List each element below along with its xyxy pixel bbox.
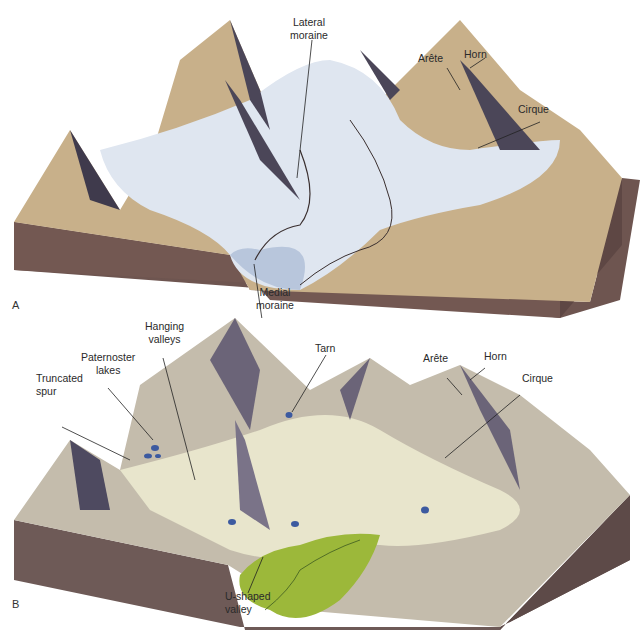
label-line: spur	[36, 385, 83, 398]
label-line: valley	[225, 603, 271, 616]
label-line: Lateral	[290, 16, 328, 29]
panel-b-deglaciated-landscape: Hanging valleys Paternoster lakes Trunca…	[0, 310, 641, 637]
label-line: Paternoster	[81, 351, 135, 364]
glacier-block-diagram-a	[0, 0, 641, 318]
label-hanging-valleys: Hanging valleys	[145, 320, 184, 346]
label-paternoster-lakes: Paternoster lakes	[81, 351, 135, 377]
label-line: valleys	[145, 333, 184, 346]
label-line: moraine	[290, 29, 328, 42]
label-cirque: Cirque	[518, 103, 549, 116]
label-u-shaped-valley: U-shaped valley	[225, 590, 271, 616]
label-truncated-spur: Truncated spur	[36, 372, 83, 398]
label-lateral-moraine: Lateral moraine	[290, 16, 328, 42]
label-arete: Arête	[423, 352, 448, 365]
panel-letter-b: B	[12, 598, 19, 610]
label-cirque: Cirque	[522, 372, 553, 385]
label-arete: Arête	[418, 52, 443, 65]
label-horn: Horn	[464, 48, 487, 61]
label-horn: Horn	[484, 350, 507, 363]
label-medial-moraine: Medial moraine	[256, 286, 294, 312]
panel-a-glaciated-landscape: Lateral moraine Arête Horn Cirque Medial…	[0, 0, 641, 318]
label-line: lakes	[81, 364, 135, 377]
label-tarn: Tarn	[315, 342, 335, 355]
label-line: Hanging	[145, 320, 184, 333]
label-line: Truncated	[36, 372, 83, 385]
label-line: Medial	[256, 286, 294, 299]
label-line: U-shaped	[225, 590, 271, 603]
